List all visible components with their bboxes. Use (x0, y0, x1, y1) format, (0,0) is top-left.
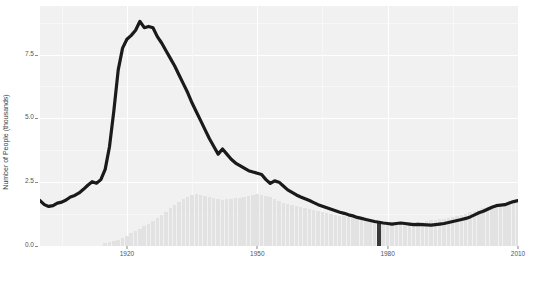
y-tick-mark (35, 118, 38, 119)
x-tick-label: 1950 (250, 251, 264, 258)
x-tick-label: 1920 (120, 251, 134, 258)
y-tick-label: 0.0 (0, 242, 34, 249)
y-tick-mark (35, 55, 38, 56)
x-tick-label: 1980 (380, 251, 394, 258)
x-tick-mark (518, 246, 519, 249)
x-tick-label: 2010 (511, 251, 525, 258)
y-tick-mark (35, 182, 38, 183)
line-series (40, 6, 518, 246)
y-tick-label: 2.5 (0, 178, 34, 185)
chart-container: Number of People (thousands) 0.02.55.07.… (0, 0, 541, 284)
x-tick-mark (126, 246, 127, 249)
y-tick-label: 7.5 (0, 51, 34, 58)
y-axis-label: Number of People (thousands) (2, 22, 9, 262)
y-tick-mark (35, 246, 38, 247)
x-tick-mark (387, 246, 388, 249)
plot-panel (40, 6, 518, 246)
x-tick-mark (257, 246, 258, 249)
y-tick-label: 5.0 (0, 114, 34, 121)
